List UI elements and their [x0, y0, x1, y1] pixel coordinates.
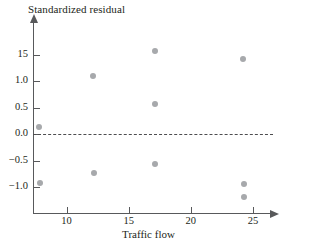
- x-axis-arrow-icon: [270, 210, 279, 218]
- y-tick-label: −1.0: [0, 180, 28, 191]
- x-tick-mark: [253, 207, 254, 213]
- x-tick-mark: [129, 207, 130, 213]
- x-axis-label-wrap: Traffic flow: [0, 228, 317, 240]
- data-point: [91, 170, 97, 176]
- x-tick-mark: [67, 207, 68, 213]
- data-point: [37, 180, 43, 186]
- residual-scatter-plot: Standardized residual 151.00.50.0−0.5−1.…: [0, 0, 317, 246]
- y-tick-label: −0.5: [0, 154, 28, 165]
- data-point: [152, 101, 158, 107]
- x-axis-label: Traffic flow: [122, 228, 175, 240]
- data-point: [241, 194, 247, 200]
- x-tick-label: 25: [238, 215, 268, 226]
- data-point: [152, 48, 158, 54]
- plot-title: Standardized residual: [28, 3, 125, 15]
- data-point: [90, 73, 96, 79]
- x-tick-label: 20: [176, 215, 206, 226]
- y-tick-label: 0.5: [0, 101, 28, 112]
- y-axis-arrow-icon: [30, 14, 38, 23]
- data-point: [36, 124, 42, 130]
- y-tick-mark: [34, 55, 40, 56]
- data-point: [241, 181, 247, 187]
- y-tick-label: 0.0: [0, 127, 28, 138]
- y-tick-mark: [34, 187, 40, 188]
- x-tick-label: 15: [114, 215, 144, 226]
- y-tick-mark: [34, 81, 40, 82]
- data-point: [240, 56, 246, 62]
- x-axis-line: [33, 213, 273, 214]
- y-tick-mark: [34, 161, 40, 162]
- y-tick-mark: [34, 108, 40, 109]
- data-point: [152, 161, 158, 167]
- x-tick-mark: [191, 207, 192, 213]
- x-tick-label: 10: [52, 215, 82, 226]
- y-tick-label: 15: [0, 48, 28, 59]
- y-axis-line: [33, 22, 34, 214]
- zero-reference-line: [33, 134, 273, 135]
- y-tick-label: 1.0: [0, 74, 28, 85]
